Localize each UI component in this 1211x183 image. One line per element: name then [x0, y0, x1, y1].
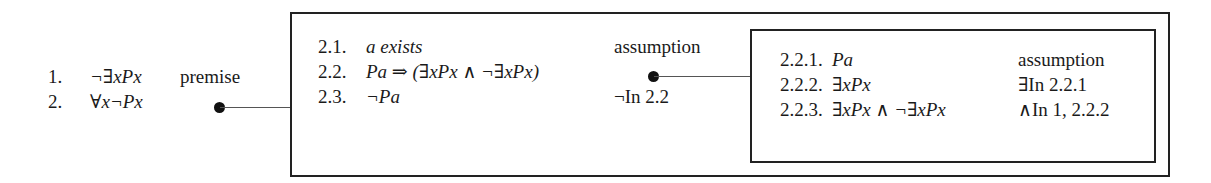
formula-text: Pa ⇒ (∃xPx ∧ ¬∃xPx)	[366, 61, 539, 82]
line-number: 1.	[48, 66, 62, 88]
justification: premise	[180, 66, 240, 88]
line-number: 2.2.3.	[780, 99, 823, 121]
formula: ¬∃xPx	[90, 66, 142, 88]
formula: Pa ⇒ (∃xPx ∧ ¬∃xPx)	[366, 61, 539, 83]
formula-text: a exists	[366, 36, 422, 57]
formula: ∃xPx	[832, 74, 871, 96]
connector-line	[654, 76, 752, 78]
formula-text: ¬∃xPx	[90, 66, 142, 87]
formula-text: ∃xPx ∧ ¬∃xPx	[832, 99, 946, 120]
formula: ∃xPx ∧ ¬∃xPx	[832, 99, 946, 121]
line-number: 2.2.1.	[780, 49, 823, 71]
line-number: 2.	[48, 91, 62, 113]
formula-text: ∃xPx	[832, 74, 871, 95]
connector-line	[220, 107, 292, 109]
formula-text: Pa	[832, 49, 853, 70]
line-number: 2.3.	[318, 86, 347, 108]
formula-text: ∀x¬Px	[90, 91, 143, 112]
line-number: 2.2.2.	[780, 74, 823, 96]
formula-text: ¬Pa	[366, 86, 400, 107]
justification: ∧In 1, 2.2.2	[1018, 99, 1109, 121]
formula: Pa	[832, 49, 853, 71]
justification: ∃In 2.2.1	[1018, 74, 1087, 96]
justification: assumption	[1018, 49, 1105, 71]
justification: ¬In 2.2	[614, 86, 669, 108]
formula: ∀x¬Px	[90, 91, 143, 113]
justification: assumption	[614, 36, 701, 58]
formula: ¬Pa	[366, 86, 400, 108]
line-number: 2.2.	[318, 61, 347, 83]
formula: a exists	[366, 36, 422, 58]
line-number: 2.1.	[318, 36, 347, 58]
